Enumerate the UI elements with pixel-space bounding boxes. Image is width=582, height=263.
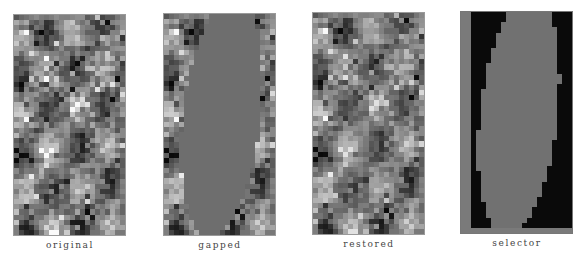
gapped-image bbox=[164, 14, 275, 235]
original-image bbox=[14, 15, 125, 235]
caption-selector: selector bbox=[457, 238, 577, 248]
gapped-image-panel bbox=[163, 13, 276, 236]
caption-original: original bbox=[10, 240, 130, 250]
caption-restored: restored bbox=[309, 239, 429, 249]
original-image-panel bbox=[13, 14, 126, 236]
selector-mask bbox=[461, 12, 572, 233]
restored-image-panel bbox=[312, 12, 425, 235]
caption-gapped: gapped bbox=[160, 240, 280, 250]
selector-mask-panel bbox=[460, 11, 573, 234]
restored-image bbox=[313, 13, 424, 234]
